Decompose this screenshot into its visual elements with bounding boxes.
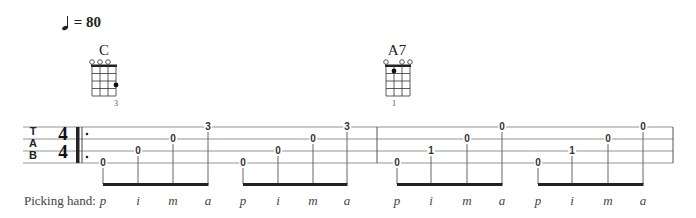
fret-number: 1 (427, 146, 435, 156)
time-sig-bottom: 4 (56, 143, 70, 161)
chord-finger-number: 1 (392, 99, 396, 108)
tab-staff (23, 127, 673, 163)
clef-a: A (28, 137, 38, 149)
beam (397, 183, 503, 186)
beam (538, 183, 644, 186)
notation-canvas (0, 0, 696, 218)
picking-finger: m (308, 193, 317, 209)
picking-finger: i (136, 193, 140, 209)
time-signature: 4 4 (56, 125, 70, 161)
fret-number: 0 (169, 134, 177, 144)
fret-number: 0 (309, 134, 317, 144)
fret-number: 0 (498, 122, 506, 132)
open-string-icon (90, 60, 111, 65)
fret-number: 0 (639, 122, 647, 132)
picking-hand-label: Picking hand: (24, 193, 96, 209)
clef-b: B (28, 149, 38, 161)
open-string-icon (384, 60, 413, 65)
picking-finger: p (100, 193, 107, 209)
beam (243, 183, 348, 186)
fret-number: 0 (393, 158, 401, 168)
picking-finger: p (535, 193, 542, 209)
fret-number: 0 (239, 158, 247, 168)
repeat-dot-icon (86, 133, 89, 136)
chord-diagram-a7 (384, 60, 413, 96)
picking-finger: m (603, 193, 612, 209)
fret-number: 0 (274, 146, 282, 156)
picking-finger: a (499, 193, 506, 209)
fret-number: 0 (99, 158, 107, 168)
repeat-dot-icon (86, 156, 89, 159)
picking-finger: a (344, 193, 351, 209)
clef-t: T (28, 125, 38, 137)
picking-finger: m (462, 193, 471, 209)
chord-diagram-c (90, 60, 119, 96)
picking-finger: p (394, 193, 401, 209)
finger-dot-icon (392, 69, 397, 74)
fret-number: 1 (568, 146, 576, 156)
picking-finger: a (205, 193, 212, 209)
picking-finger: a (640, 193, 647, 209)
picking-finger: i (429, 193, 433, 209)
fret-number: 3 (343, 122, 351, 132)
repeat-start-barline (76, 127, 88, 163)
fret-number: 0 (604, 134, 612, 144)
fret-number: 0 (463, 134, 471, 144)
fret-number: 0 (534, 158, 542, 168)
fret-number: 0 (134, 146, 142, 156)
note-stems (103, 130, 643, 184)
finger-dot-icon (114, 83, 119, 88)
beams (103, 183, 644, 186)
picking-finger: i (276, 193, 280, 209)
picking-finger: p (240, 193, 247, 209)
beam (103, 183, 209, 186)
fret-number: 3 (204, 122, 212, 132)
picking-finger: i (570, 193, 574, 209)
tab-clef: T A B (28, 125, 38, 161)
picking-finger: m (168, 193, 177, 209)
chord-finger-number: 3 (114, 99, 118, 108)
